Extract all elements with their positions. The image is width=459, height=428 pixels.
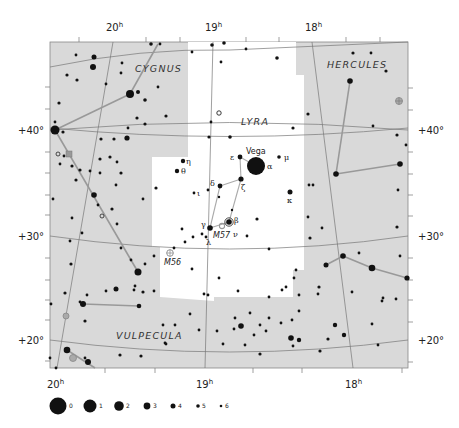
dec-label-left-20: +20° [18,335,44,346]
ra-label-18h-bottom: 18h [345,378,362,390]
label-gamma: γ [201,220,206,229]
globular-cluster-icon [63,313,69,319]
magnitude-legend: 0 1 2 3 4 5 6 [50,398,230,415]
ra-label-20h-top: 20h [106,21,123,33]
ra-label-19h-bottom: 19h [196,378,213,390]
svg-text:0: 0 [69,402,73,409]
lyra-region-top [188,42,296,75]
svg-text:2: 2 [126,402,130,409]
label-m56: M56 [164,258,181,267]
dec-label-right-20: +20° [418,335,444,346]
label-nu: ν [233,230,238,239]
svg-text:6: 6 [225,402,229,409]
svg-text:5: 5 [202,402,206,409]
svg-text:4: 4 [178,402,182,409]
label-vega: Vega [246,147,266,156]
label-iota: ι [197,189,200,198]
constellation-cygnus: CYGNUS [135,63,182,74]
dec-label-right-40: +40° [418,125,444,136]
label-mu: μ [284,153,289,162]
label-m57: M57 [213,231,231,240]
ra-label-20h-bottom: 20h [47,378,64,390]
constellation-lyra: LYRA [241,116,269,127]
nebula-icon [66,151,72,157]
label-beta: β [234,216,239,225]
label-eta: η [186,157,191,166]
label-delta: δ [210,179,215,188]
svg-text:1: 1 [99,402,103,409]
ra-label-18h-top: 18h [305,21,322,33]
constellation-hercules: HERCULES [327,59,387,70]
constellation-vulpecula: VULPECULA [116,330,183,341]
label-alpha: α [267,162,273,171]
svg-text:3: 3 [153,402,157,409]
star-chart: CYGNUS HERCULES LYRA VULPECULA Vega α μ … [0,0,459,428]
dec-label-left-30: +30° [18,231,44,242]
label-lambda: λ [206,238,211,247]
label-epsilon: ε [230,153,234,162]
globular-cluster-icon [70,355,77,362]
label-kappa: κ [287,196,292,205]
dec-label-right-30: +30° [418,231,444,242]
ra-label-19h-top: 19h [205,21,222,33]
label-zeta: ζ [241,183,246,192]
dec-label-left-40: +40° [18,125,44,136]
label-theta: θ [181,167,186,176]
